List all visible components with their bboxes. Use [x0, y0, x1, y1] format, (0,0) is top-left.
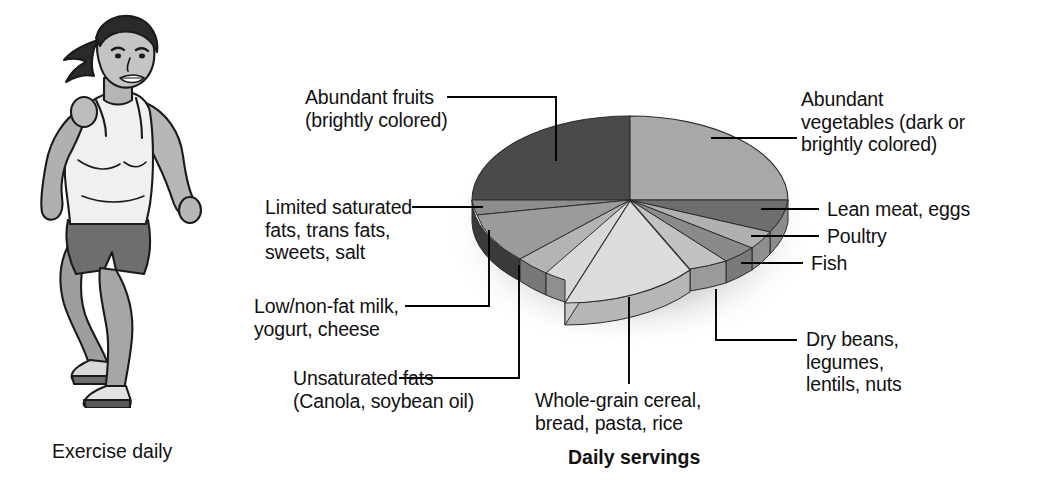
label-abundant-vegetables: Abundant vegetables (dark or brightly co…	[801, 88, 965, 156]
label-abundant-fruits: Abundant fruits (brightly colored)	[305, 86, 448, 131]
label-dry-beans: Dry beans, legumes, lentils, nuts	[806, 328, 902, 396]
label-poultry: Poultry	[827, 225, 887, 248]
label-unsaturated-fats: Unsaturated fats (Canola, soybean oil)	[293, 367, 474, 412]
label-whole-grain: Whole-grain cereal, bread, pasta, rice	[535, 389, 701, 434]
pie-chart-3d	[0, 0, 1050, 489]
label-dairy: Low/non-fat milk, yogurt, cheese	[254, 295, 399, 340]
figure-canvas: Exercise daily	[0, 0, 1050, 489]
daily-servings-caption: Daily servings	[568, 446, 700, 469]
label-fish: Fish	[811, 252, 847, 275]
label-lean-meat-eggs: Lean meat, eggs	[827, 198, 970, 221]
label-limited-saturated-fats: Limited saturated fats, trans fats, swee…	[265, 196, 412, 264]
slice-fruits	[472, 116, 630, 200]
slice-vegetables	[630, 116, 788, 200]
